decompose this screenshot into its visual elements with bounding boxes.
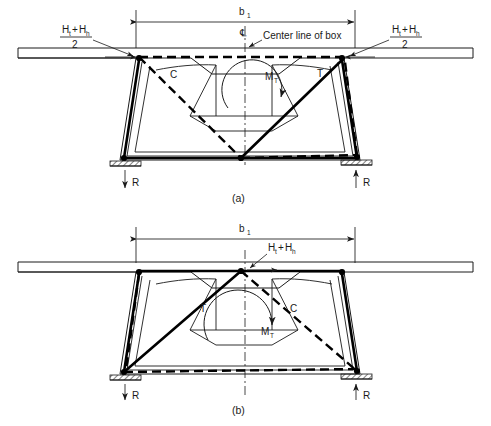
diagonal-label-C-b: C [290, 303, 297, 314]
dimension-label-b-b: b [239, 223, 245, 234]
caption-b: (b) [232, 404, 245, 416]
h-plus-b: + [278, 242, 284, 253]
diagonal-label-C-a: C [170, 69, 177, 80]
h-sub-1-b: t [275, 248, 277, 255]
h-sub-2-right: h [416, 30, 420, 37]
reaction-label-left-a: R [132, 177, 139, 188]
dimension-label-b: b [239, 6, 245, 17]
reaction-label-right-b: R [363, 390, 370, 401]
centerline-note: Center line of box [263, 30, 341, 41]
h-plus-left: + [72, 24, 78, 35]
bearing-left-a [110, 161, 141, 166]
dimension-label-b-sub-b: 1 [247, 229, 251, 236]
h-denom-left: 2 [72, 39, 78, 50]
h-sub-1-left: t [69, 30, 71, 37]
h-plus-right: + [402, 24, 408, 35]
moment-sub-b: T [270, 332, 274, 339]
reaction-label-left-b: R [132, 390, 139, 401]
moment-label-b: M [261, 326, 269, 337]
diagonal-label-T-b: T [200, 303, 206, 314]
moment-sub-a: T [274, 77, 278, 84]
caption-a: (a) [232, 192, 245, 204]
h-sub-1-right: t [399, 30, 401, 37]
h-sub-2-b: h [292, 248, 296, 255]
bearing-right-b [341, 374, 372, 379]
moment-label-a: M [265, 71, 273, 82]
h-sub-2-left: h [86, 30, 90, 37]
bearing-left-b [110, 375, 141, 380]
centerline-symbol: ℄ [239, 27, 247, 38]
figure-canvas: b 1 ℄ Center line of box [0, 0, 491, 426]
diagonal-label-T-a: T [317, 68, 323, 79]
background [0, 0, 491, 426]
h-denom-right: 2 [402, 39, 408, 50]
dimension-label-b-sub: 1 [247, 12, 251, 19]
reaction-label-right-a: R [363, 177, 370, 188]
bearing-right-a [341, 160, 372, 165]
